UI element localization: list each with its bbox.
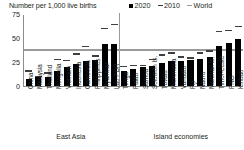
x-axis-label-indonesia: Indonesia [76, 62, 82, 89]
x-axis-label-timor-leste: Timor-Leste [219, 56, 225, 89]
x-label-slot: Cambodia [80, 89, 90, 131]
y-axis-tick-25: 25 [12, 59, 20, 66]
legend-swatch-dash-icon [158, 5, 163, 6]
x-label-slot: Palau [128, 89, 138, 131]
x-axis-label-thailand: Thailand [47, 65, 53, 89]
x-label-slot: Myanmar [100, 89, 110, 131]
x-axis-label-lao-pdr: Lao PDR [114, 63, 120, 89]
group-title-island-economies: Island economies [119, 133, 243, 140]
x-axis-label-malaysia: Malaysia [37, 64, 43, 89]
legend-item-2020[interactable]: 2020 [129, 1, 151, 10]
x-label-slot: Indonesia [71, 89, 81, 131]
marker-2010[interactable] [235, 26, 242, 28]
marker-2010[interactable] [140, 65, 147, 67]
x-label-slot: Marshall Is. [205, 89, 215, 131]
x-label-slot: Malaysia [33, 89, 43, 131]
legend-label-world: World [194, 1, 213, 10]
axis-title: Number per 1,000 live births [9, 1, 97, 10]
x-axis-label-nauru: Nauru [200, 72, 206, 89]
marker-2010[interactable] [63, 60, 70, 62]
x-label-slot: Fiji [186, 89, 196, 131]
x-label-slot: Nauru [195, 89, 205, 131]
group-title-east-asia: East Asia [23, 133, 119, 140]
x-label-slot: Samoa [138, 89, 148, 131]
x-axis-label-philippines: Philippines [95, 59, 101, 89]
x-axis-label-marshall-is: Marshall Is. [209, 57, 215, 89]
x-axis-label-tuvalu: Tuvalu [162, 70, 168, 89]
x-axis-label-tonga: Tonga [123, 72, 129, 89]
y-axis-tick-75: 75 [12, 11, 20, 18]
legend-swatch-square-icon [129, 4, 133, 8]
x-axis-label-solomon-is: Solomon Is. [152, 56, 158, 89]
marker-2010[interactable] [73, 53, 80, 55]
chart-container: Number per 1,000 live births 2020 2010 W… [0, 0, 244, 150]
x-label-slot: Tonga [119, 89, 129, 131]
x-axis-label-samoa: Samoa [143, 69, 149, 89]
marker-2010[interactable] [120, 66, 127, 68]
x-label-slot: China [23, 89, 33, 131]
x-axis-label-fiji: Fiji [190, 81, 196, 89]
legend-item-world[interactable]: World [187, 1, 212, 10]
x-label-slot: Lao PDR [109, 89, 119, 131]
marker-2010[interactable] [159, 54, 166, 56]
y-axis-tick-50: 50 [12, 35, 20, 42]
x-label-slot: Kiribati [233, 89, 243, 131]
marker-2010[interactable] [101, 28, 108, 30]
x-axis-label-kiribati: Kiribati [238, 70, 244, 89]
marker-2010[interactable] [92, 55, 99, 57]
chart-header: Number per 1,000 live births 2020 2010 W… [0, 0, 244, 13]
legend-item-2010[interactable]: 2010 [158, 1, 181, 10]
x-label-slot: PNG [224, 89, 234, 131]
marker-2010[interactable] [168, 52, 175, 54]
x-label-slot: Solomon Is. [147, 89, 157, 131]
x-axis-label-png: PNG [229, 75, 235, 89]
x-axis-label-cambodia: Cambodia [85, 60, 91, 89]
marker-2010[interactable] [187, 57, 194, 59]
x-axis-label-myanmar: Myanmar [104, 63, 110, 89]
group-titles: East AsiaIsland economies [23, 133, 243, 147]
legend-label-2020: 2020 [135, 1, 151, 10]
marker-2010[interactable] [225, 30, 232, 32]
y-axis-labels: 0255075 [0, 13, 22, 89]
x-axis-label-vietnam: Vietnam [66, 66, 72, 89]
marker-2010[interactable] [206, 50, 213, 52]
x-label-slot: Mongolia [52, 89, 62, 131]
x-axis-label-micronesia: Micronesia [171, 59, 177, 89]
x-axis-label-china: China [28, 73, 34, 89]
chart-legend: 2020 2010 World [129, 1, 212, 10]
marker-2010[interactable] [178, 56, 185, 58]
x-label-slot: Vanuatu [176, 89, 186, 131]
x-label-slot: Philippines [90, 89, 100, 131]
legend-label-2010: 2010 [164, 1, 180, 10]
x-label-slot: Thailand [42, 89, 52, 131]
x-label-slot: Tuvalu [157, 89, 167, 131]
x-label-slot: Micronesia [166, 89, 176, 131]
x-axis-label-palau: Palau [133, 73, 139, 89]
x-label-slot: Vietnam [61, 89, 71, 131]
marker-2010[interactable] [216, 31, 223, 33]
legend-swatch-line-icon [187, 5, 192, 6]
marker-2010[interactable] [54, 59, 61, 61]
x-axis-category-labels: ChinaMalaysiaThailandMongoliaVietnamIndo… [23, 89, 243, 131]
y-axis-tick-0: 0 [16, 83, 20, 90]
marker-2010[interactable] [82, 46, 89, 48]
marker-2010[interactable] [197, 52, 204, 54]
x-axis-label-vanuatu: Vanuatu [181, 66, 187, 89]
marker-2010[interactable] [130, 65, 137, 67]
marker-2010[interactable] [111, 24, 118, 26]
x-label-slot: Timor-Leste [214, 89, 224, 131]
x-axis-label-mongolia: Mongolia [56, 63, 62, 89]
